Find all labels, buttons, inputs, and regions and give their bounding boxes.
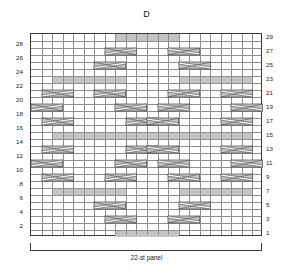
row-number-right: 1 — [266, 229, 269, 236]
row-number-right: 29 — [266, 33, 273, 40]
cable-cross-symbol — [179, 62, 211, 69]
cable-cross-symbol — [42, 118, 74, 125]
row-number-left: 8 — [0, 180, 26, 187]
cable-cross-symbol — [147, 146, 179, 153]
cable-cross-symbol — [158, 104, 190, 111]
row-number-left: 24 — [0, 68, 26, 75]
cable-cross-symbol — [158, 160, 190, 167]
cable-cross-symbol — [168, 174, 200, 181]
cable-cross-symbol — [147, 118, 179, 125]
row-number-left: 28 — [0, 40, 26, 47]
row-number-left: 14 — [0, 138, 26, 145]
cable-cross-symbol — [31, 104, 63, 111]
row-number-right: 9 — [266, 173, 269, 180]
row-number-right: 3 — [266, 215, 269, 222]
row-number-right: 21 — [266, 89, 273, 96]
cable-cross-symbol — [231, 104, 263, 111]
cable-cross-symbol — [105, 174, 137, 181]
cable-cross-symbol — [221, 90, 253, 97]
chart-title: D — [0, 9, 293, 19]
cable-cross-symbol — [221, 174, 253, 181]
row-number-right: 17 — [266, 117, 273, 124]
row-number-left: 12 — [0, 152, 26, 159]
row-number-right: 7 — [266, 187, 269, 194]
panel-width-bracket — [30, 243, 262, 251]
cable-cross-symbol — [168, 48, 200, 55]
cable-cross-symbol — [105, 48, 137, 55]
cable-cross-symbol — [221, 146, 253, 153]
bracket-bar — [30, 250, 262, 251]
row-number-left: 10 — [0, 166, 26, 173]
row-number-right: 27 — [266, 47, 273, 54]
chart-container: D 282624222018161412108642 2927252321191… — [0, 0, 293, 271]
row-number-right: 23 — [266, 75, 273, 82]
cable-cross-symbol — [231, 160, 263, 167]
row-number-right: 19 — [266, 103, 273, 110]
row-number-left: 6 — [0, 194, 26, 201]
row-number-left: 18 — [0, 110, 26, 117]
cable-cross-symbol — [94, 202, 126, 209]
cable-symbols-layer — [31, 34, 261, 235]
row-number-left: 20 — [0, 96, 26, 103]
cable-cross-symbol — [105, 216, 137, 223]
row-number-right: 11 — [266, 159, 272, 166]
cable-cross-symbol — [31, 160, 63, 167]
row-number-right: 15 — [266, 131, 273, 138]
row-number-right: 5 — [266, 201, 269, 208]
stitch-grid[interactable] — [30, 33, 262, 236]
bracket-tick-right — [261, 243, 262, 251]
cable-cross-symbol — [42, 174, 74, 181]
row-number-left: 26 — [0, 54, 26, 61]
row-number-left: 2 — [0, 222, 26, 229]
cable-cross-symbol — [94, 62, 126, 69]
cable-cross-symbol — [115, 104, 147, 111]
cable-cross-symbol — [179, 202, 211, 209]
cable-cross-symbol — [42, 146, 74, 153]
cable-cross-symbol — [42, 90, 74, 97]
row-number-left: 4 — [0, 208, 26, 215]
row-number-left: 22 — [0, 82, 26, 89]
row-number-right: 13 — [266, 145, 273, 152]
cable-cross-symbol — [221, 118, 253, 125]
cable-cross-symbol — [168, 90, 200, 97]
cable-cross-symbol — [94, 90, 126, 97]
panel-caption: 22-st panel — [0, 254, 293, 261]
row-number-right: 25 — [266, 61, 273, 68]
cable-cross-symbol — [115, 160, 147, 167]
cable-cross-symbol — [168, 216, 200, 223]
row-number-left: 16 — [0, 124, 26, 131]
